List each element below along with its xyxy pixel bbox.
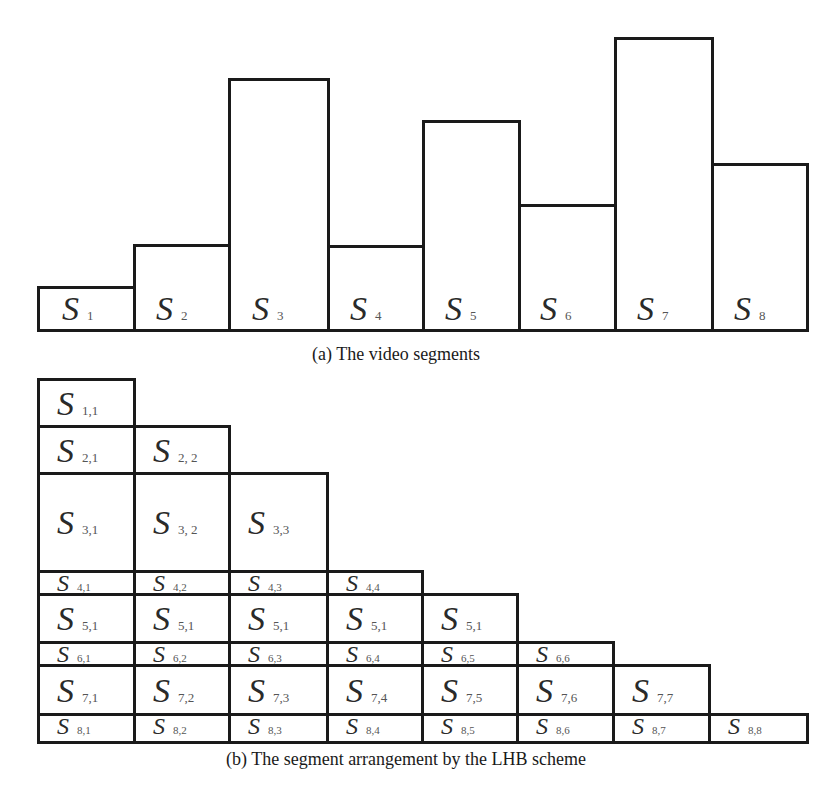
segment-label-8: S8 [734,292,766,326]
arrangement-cell-label: S2,1 [57,434,98,468]
arrangement-cell-label: S6,4 [346,642,380,666]
arrangement-cell-label: S2, 2 [153,434,198,468]
segment-label-5: S5 [445,292,477,326]
segment-label-2: S2 [156,292,188,326]
arrangement-cell-label: S7,2 [153,674,194,708]
arrangement-cell-label: S8,2 [153,714,187,738]
segment-label-3: S3 [252,292,284,326]
arrangement-cell-label: S8,4 [346,714,380,738]
arrangement-cell-label: S4,2 [153,571,187,595]
arrangement-cell-label: S8,3 [248,714,282,738]
arrangement-cell-label: S5,1 [248,602,289,636]
arrangement-cell-label: S8,1 [57,714,91,738]
arrangement-cell-label: S6,5 [441,642,475,666]
segment-label-1: S1 [62,292,94,326]
arrangement-cell-label: S7,7 [632,674,673,708]
arrangement-cell-label: S7,4 [346,674,387,708]
arrangement-cell-label: S4,4 [346,571,380,595]
arrangement-cell-label: S8,5 [441,714,475,738]
arrangement-cell-label: S8,8 [728,714,762,738]
arrangement-cell-label: S5,1 [153,602,194,636]
arrangement-cell-label: S6,6 [536,642,570,666]
arrangement-cell-label: S4,3 [248,571,282,595]
arrangement-cell-label: S3, 2 [153,506,198,540]
arrangement-cell-label: S6,2 [153,642,187,666]
arrangement-cell-label: S7,1 [57,674,98,708]
arrangement-cell-label: S1,1 [57,387,98,421]
arrangement-cell-label: S7,5 [441,674,482,708]
segment-label-7: S7 [637,292,669,326]
caption-a: (a) The video segments [312,344,480,365]
arrangement-cell-label: S8,6 [536,714,570,738]
arrangement-cell-label: S3,3 [248,506,289,540]
arrangement-cell-label: S7,3 [248,674,289,708]
arrangement-cell-label: S7,6 [536,674,577,708]
arrangement-cell-label: S6,1 [57,642,91,666]
arrangement-cell-label: S4,1 [57,571,91,595]
arrangement-cell-label: S5,1 [57,602,98,636]
segment-label-4: S4 [350,292,382,326]
arrangement-cell-label: S3,1 [57,506,98,540]
lhb-diagram: S1 S2 S3 S4 S5 S6 S7 S8 (a) The video se… [0,0,839,796]
arrangement-cell-label: S5,1 [441,602,482,636]
caption-b: (b) The segment arrangement by the LHB s… [226,749,586,770]
segment-label-6: S6 [540,292,572,326]
arrangement-cell-label: S5,1 [346,602,387,636]
segment-bar-7 [614,37,714,332]
arrangement-cell-label: S8,7 [632,714,666,738]
arrangement-cell-label: S6,3 [248,642,282,666]
